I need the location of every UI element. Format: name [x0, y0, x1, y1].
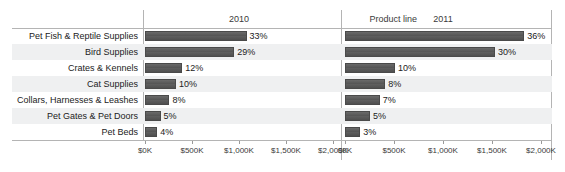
bar-group[interactable]: 5%: [345, 108, 386, 124]
row-label: Bird Supplies: [12, 44, 143, 60]
bar-value-label: 5%: [373, 111, 386, 121]
bar[interactable]: [345, 95, 380, 105]
row-label: Pet Fish & Reptile Supplies: [12, 28, 143, 44]
axis-tick-label: $0K: [138, 146, 152, 155]
header-panel-2010: 2010: [145, 10, 333, 28]
bar[interactable]: [345, 47, 495, 57]
bar-group[interactable]: 33%: [145, 28, 268, 44]
axis-tick: [443, 141, 444, 144]
axis-tick: [345, 141, 346, 144]
bar[interactable]: [145, 95, 169, 105]
bar-value-label: 36%: [527, 31, 545, 41]
axis-tick-label: $1,000K: [428, 146, 458, 155]
bar[interactable]: [345, 127, 360, 137]
row-label: Cat Supplies: [12, 76, 143, 92]
axis-tick: [394, 141, 395, 144]
bar-group[interactable]: 7%: [345, 92, 396, 108]
bar[interactable]: [145, 127, 157, 137]
bar-group[interactable]: 29%: [145, 44, 255, 60]
bar-value-label: 10%: [179, 79, 197, 89]
bar-group[interactable]: 36%: [345, 28, 545, 44]
bar-value-label: 3%: [363, 127, 376, 137]
axis-tick-label: $1,500K: [271, 146, 301, 155]
row-label: Pet Beds: [12, 124, 143, 140]
bar-value-label: 4%: [160, 127, 173, 137]
bar[interactable]: [345, 31, 524, 41]
crosstab-bar-chart: Product line 2010 2011 Pet Fish & Reptil…: [0, 0, 565, 172]
bar[interactable]: [145, 63, 182, 73]
x-axis-2011: $0K$500K$1,000K$1,500K$2,000K: [345, 141, 541, 161]
axis-tick: [145, 141, 146, 144]
bar-group[interactable]: 8%: [145, 92, 185, 108]
bar-group[interactable]: 4%: [145, 124, 173, 140]
row-label: Collars, Harnesses & Leashes: [12, 92, 143, 108]
axis-tick-label: $500K: [382, 146, 405, 155]
axis-tick: [286, 141, 287, 144]
bar-group[interactable]: 12%: [145, 60, 203, 76]
bar-value-label: 5%: [164, 111, 177, 121]
bar-value-label: 30%: [498, 47, 516, 57]
bar-value-label: 8%: [388, 79, 401, 89]
axis-tick-label: $0K: [338, 146, 352, 155]
bar-value-label: 33%: [250, 31, 268, 41]
bar-value-label: 12%: [185, 63, 203, 73]
axis-tick: [333, 141, 334, 144]
bar-group[interactable]: 8%: [345, 76, 401, 92]
x-axis-2010: $0K$500K$1,000K$1,500K$2,000K: [145, 141, 333, 161]
bar[interactable]: [145, 47, 234, 57]
axis-tick: [239, 141, 240, 144]
axis-tick: [492, 141, 493, 144]
row-label: Crates & Kennels: [12, 60, 143, 76]
bar-value-label: 10%: [398, 63, 416, 73]
bar-group[interactable]: 10%: [345, 60, 416, 76]
bar-group[interactable]: 10%: [145, 76, 197, 92]
axis-tick: [192, 141, 193, 144]
bar-group[interactable]: 30%: [345, 44, 516, 60]
axis-tick-label: $1,500K: [477, 146, 507, 155]
axis-tick-label: $1,000K: [224, 146, 254, 155]
bar[interactable]: [345, 63, 395, 73]
axis-tick: [541, 141, 542, 144]
bar[interactable]: [345, 111, 370, 121]
axis-tick-label: $500K: [180, 146, 203, 155]
bar[interactable]: [345, 79, 385, 89]
bar-value-label: 7%: [383, 95, 396, 105]
bar[interactable]: [145, 79, 176, 89]
bar[interactable]: [145, 111, 161, 121]
bar-group[interactable]: 3%: [345, 124, 376, 140]
bar[interactable]: [145, 31, 247, 41]
bar-value-label: 29%: [237, 47, 255, 57]
bar-value-label: 8%: [172, 95, 185, 105]
axis-tick-label: $2,000K: [526, 146, 556, 155]
bar-group[interactable]: 5%: [145, 108, 177, 124]
header-panel-2011: 2011: [345, 10, 541, 28]
row-label: Pet Gates & Pet Doors: [12, 108, 143, 124]
